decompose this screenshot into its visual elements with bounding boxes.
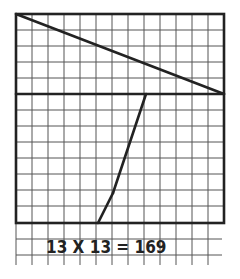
equation-label: 13 X 13 = 169 (46, 237, 166, 257)
grid-lines (16, 14, 224, 265)
slant-cut-upper (113, 94, 146, 193)
slant-cut-lower (98, 193, 113, 223)
outline (16, 14, 224, 223)
diagonal-cut (16, 14, 224, 94)
